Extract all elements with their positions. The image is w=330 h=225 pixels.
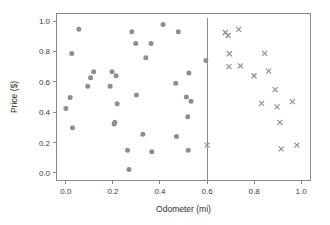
data-point-circle (108, 84, 113, 89)
data-point-cross (275, 104, 280, 109)
x-tick-label: 0.8 (248, 187, 260, 196)
data-point-circle (203, 58, 208, 63)
data-point-circle (161, 22, 166, 27)
data-point-circle (88, 75, 93, 80)
data-point-circle (186, 148, 191, 153)
data-point-cross (227, 51, 232, 56)
data-point-cross (266, 69, 271, 74)
data-point-circle (126, 167, 131, 172)
data-point-circle (70, 125, 75, 130)
data-point-circle (189, 99, 194, 104)
axis-ticks: 0.00.20.40.60.81.00.00.20.40.60.81.0 (39, 17, 307, 195)
data-point-circle (115, 101, 120, 106)
data-point-circle (110, 69, 115, 74)
y-tick-label: 0.0 (39, 169, 51, 178)
y-tick-label: 0.8 (39, 47, 51, 56)
data-point-circle (69, 51, 74, 56)
data-point-cross (294, 143, 299, 148)
y-tick-label: 1.0 (39, 17, 51, 26)
scatter-plot-figure: 0.00.20.40.60.81.00.00.20.40.60.81.0 Odo… (0, 0, 330, 225)
data-point-circle (173, 81, 178, 86)
x-tick-label: 0.2 (107, 187, 119, 196)
data-point-cross (226, 33, 231, 38)
plot-canvas: 0.00.20.40.60.81.00.00.20.40.60.81.0 Odo… (0, 0, 330, 225)
data-point-cross (273, 87, 278, 92)
data-point-circle (76, 27, 81, 32)
data-point-circle (174, 134, 179, 139)
data-point-cross (236, 27, 241, 32)
x-tick-label: 0.4 (154, 187, 166, 196)
data-point-circle (143, 55, 148, 60)
data-point-circle (186, 71, 191, 76)
data-point-cross (279, 146, 284, 151)
data-point-cross (238, 63, 243, 68)
x-tick-label: 0.0 (60, 187, 72, 196)
data-point-circle (134, 93, 139, 98)
x-tick-label: 0.6 (201, 187, 213, 196)
plot-border (57, 14, 311, 181)
data-point-circle (112, 120, 117, 125)
x-axis-title: Odometer (mi) (156, 204, 211, 214)
data-point-circle (114, 73, 119, 78)
data-point-circle (149, 149, 154, 154)
data-point-circle (184, 95, 189, 100)
y-tick-label: 0.4 (39, 108, 51, 117)
data-point-cross (277, 120, 282, 125)
data-point-circle (125, 148, 130, 153)
data-point-cross (262, 51, 267, 56)
data-point-cross (290, 99, 295, 104)
data-point-cross (252, 73, 257, 78)
plot-frame (57, 14, 311, 181)
data-point-circle (133, 41, 138, 46)
x-tick-label: 1.0 (296, 187, 308, 196)
data-point-circle (85, 84, 90, 89)
y-tick-label: 0.2 (39, 139, 51, 148)
series-observed (63, 22, 208, 172)
data-point-cross (259, 101, 264, 106)
data-point-circle (176, 29, 181, 34)
data-point-circle (140, 132, 145, 137)
data-point-circle (129, 29, 134, 34)
data-point-circle (68, 95, 73, 100)
data-point-circle (185, 114, 190, 119)
data-point-circle (63, 106, 68, 111)
data-point-circle (91, 69, 96, 74)
y-tick-label: 0.6 (39, 78, 51, 87)
series-counterfactual (205, 27, 300, 151)
data-points (63, 22, 299, 172)
data-point-cross (226, 64, 231, 69)
data-point-circle (149, 41, 154, 46)
y-axis-title: Price ($) (9, 81, 19, 113)
